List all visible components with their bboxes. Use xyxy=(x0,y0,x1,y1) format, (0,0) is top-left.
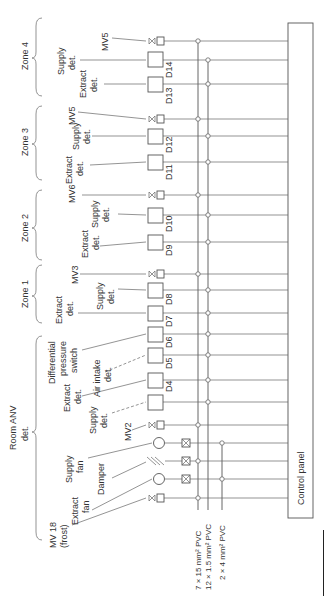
svg-text:MV5: MV5 xyxy=(67,106,77,125)
svg-text:D8: D8 xyxy=(164,293,174,305)
svg-text:fan: fan xyxy=(81,500,91,513)
svg-text:Supply: Supply xyxy=(71,122,81,150)
svg-text:Extract: Extract xyxy=(54,295,64,324)
svg-text:det.: det. xyxy=(106,289,116,304)
svg-text:det.: det. xyxy=(73,389,83,404)
svg-text:Supply: Supply xyxy=(64,455,74,483)
svg-text:D4: D4 xyxy=(164,380,174,392)
extract-fan-icon xyxy=(154,474,165,485)
svg-text:D10: D10 xyxy=(164,215,174,232)
device-labels: MV5 Supply det. Extract det. MV5 Supply … xyxy=(47,32,133,548)
valve-icon xyxy=(149,37,164,45)
svg-text:det.: det. xyxy=(75,161,85,176)
valve-icon xyxy=(149,115,164,123)
detector-d9 xyxy=(148,235,163,250)
room-anv-label-2: det. xyxy=(20,426,30,441)
detector-d5 xyxy=(148,348,163,363)
svg-text:Extract: Extract xyxy=(80,229,90,258)
svg-text:D6: D6 xyxy=(164,336,174,348)
cable-label-1: 7 × 15 mm² PVC xyxy=(194,530,203,590)
detector-d13 xyxy=(148,77,163,92)
valve-icons xyxy=(149,37,164,502)
svg-text:D12: D12 xyxy=(164,136,174,153)
svg-text:det.: det. xyxy=(89,77,99,92)
room-anv-label-1: Room ANV xyxy=(8,405,18,450)
leader-lines xyxy=(72,38,152,525)
svg-text:Extract: Extract xyxy=(62,383,72,412)
svg-text:MV5: MV5 xyxy=(100,32,110,51)
svg-text:det.: det. xyxy=(101,207,111,222)
detector-boxes xyxy=(148,52,163,410)
svg-text:Differential: Differential xyxy=(47,341,57,384)
svg-text:det.: det. xyxy=(67,55,77,70)
zone-3-label: Zone 3 xyxy=(20,128,30,156)
svg-text:D14: D14 xyxy=(164,61,174,78)
detector-d14 xyxy=(148,52,163,67)
svg-text:D11: D11 xyxy=(164,164,174,180)
svg-text:Supply: Supply xyxy=(56,47,66,75)
detector-d12 xyxy=(148,129,163,144)
svg-text:D5: D5 xyxy=(164,357,174,369)
zone-1-label: Zone 1 xyxy=(20,280,30,308)
svg-text:Supply: Supply xyxy=(88,406,98,434)
svg-text:D13: D13 xyxy=(164,87,174,104)
detector-supply-room xyxy=(148,395,163,410)
valve-icon xyxy=(149,494,164,502)
starter-icons xyxy=(182,439,190,483)
svg-text:det.: det. xyxy=(99,413,109,428)
detector-d4 xyxy=(148,373,163,388)
supply-fan-icon xyxy=(154,438,165,449)
zone-braces xyxy=(32,18,42,540)
svg-text:det.: det. xyxy=(103,367,113,382)
svg-text:D7: D7 xyxy=(164,315,174,327)
svg-text:Extract: Extract xyxy=(64,155,74,184)
svg-text:MV2: MV2 xyxy=(123,422,133,441)
control-panel-label: Control panel xyxy=(296,451,306,505)
damper-icon xyxy=(147,457,164,465)
svg-text:MV 18: MV 18 xyxy=(48,522,58,548)
control-wiring-diagram: Control panel 7 × 15 mm² PVC 12 × 1.5 mm… xyxy=(0,0,324,596)
svg-text:Air intake: Air intake xyxy=(92,359,102,397)
zone-4-label: Zone 4 xyxy=(20,42,30,70)
zone-2-label: Zone 2 xyxy=(20,214,30,242)
svg-text:det.: det. xyxy=(65,301,75,316)
svg-text:det.: det. xyxy=(82,129,92,144)
svg-text:det.: det. xyxy=(91,235,101,250)
svg-text:D9: D9 xyxy=(164,244,174,256)
svg-text:MV6: MV6 xyxy=(67,184,77,203)
detector-d7 xyxy=(148,306,163,321)
svg-text:Supply: Supply xyxy=(90,200,100,228)
pressure-switch-d6 xyxy=(148,327,163,342)
detector-d8 xyxy=(148,283,163,298)
svg-text:Extract: Extract xyxy=(70,496,80,525)
svg-text:Damper: Damper xyxy=(96,463,106,495)
svg-text:Supply: Supply xyxy=(95,282,105,310)
detector-d11 xyxy=(148,155,163,170)
detector-d10 xyxy=(148,208,163,223)
svg-text:pressure: pressure xyxy=(58,341,68,376)
valve-icon xyxy=(149,421,164,429)
svg-text:(frost): (frost) xyxy=(59,524,69,548)
cable-label-2: 12 × 1.5 mm² PVC xyxy=(204,524,213,590)
svg-text:Extract: Extract xyxy=(78,69,88,98)
valve-icon xyxy=(149,191,164,199)
cable-label-3: 2 × 4 mm² PVC xyxy=(218,525,227,580)
svg-text:fan: fan xyxy=(75,460,85,473)
rows xyxy=(163,39,288,500)
valve-icon xyxy=(149,270,164,278)
svg-text:switch: switch xyxy=(69,348,79,373)
svg-text:MV3: MV3 xyxy=(70,265,80,284)
detector-tags: D14 D13 D12 D11 D10 D9 D8 D7 D6 D5 D4 xyxy=(164,61,174,392)
control-panel xyxy=(288,23,313,518)
